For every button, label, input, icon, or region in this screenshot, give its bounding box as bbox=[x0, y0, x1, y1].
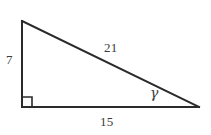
label-hypotenuse: 21 bbox=[104, 41, 118, 54]
right-angle-marker-icon bbox=[22, 97, 32, 107]
triangle-hypotenuse bbox=[22, 21, 199, 107]
label-leg-base: 15 bbox=[100, 115, 114, 128]
label-angle-gamma: γ bbox=[150, 86, 158, 100]
label-leg-left: 7 bbox=[6, 53, 13, 66]
right-triangle-figure: 7 21 15 γ bbox=[0, 0, 211, 135]
